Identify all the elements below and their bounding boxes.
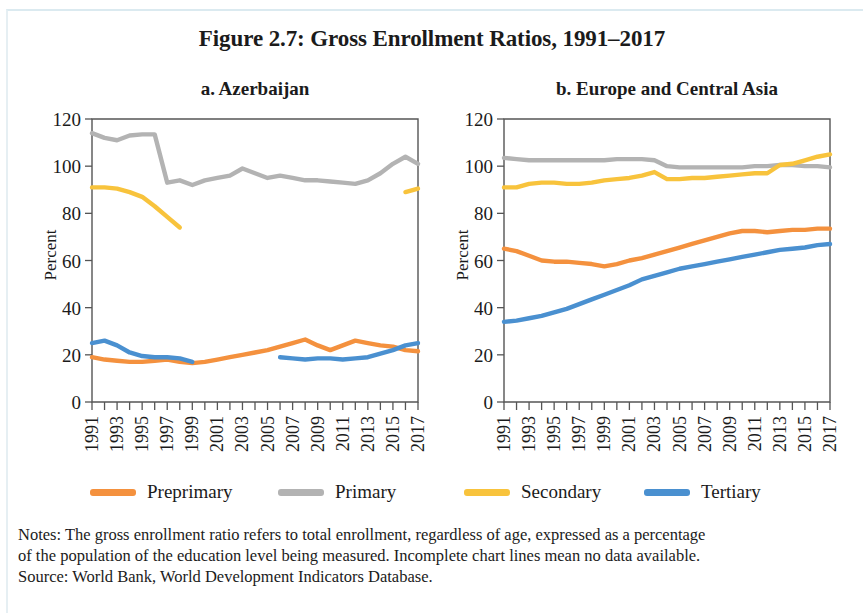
series-line-secondary: [405, 189, 418, 193]
svg-text:40: 40: [62, 298, 81, 319]
panel-b-plot: 0204060801001201991199319951997199920012…: [465, 109, 841, 452]
svg-text:60: 60: [62, 251, 81, 272]
series-line-tertiary: [504, 244, 830, 322]
svg-text:2015: 2015: [795, 416, 815, 452]
series-line-secondary: [92, 187, 180, 227]
svg-text:2001: 2001: [207, 416, 227, 452]
svg-text:2017: 2017: [820, 416, 840, 452]
svg-text:80: 80: [62, 203, 81, 224]
svg-text:2015: 2015: [383, 416, 403, 452]
legend-item-preprimary[interactable]: Preprimary: [90, 478, 232, 506]
svg-text:20: 20: [62, 345, 81, 366]
svg-text:2001: 2001: [619, 416, 639, 452]
legend-label-secondary: Secondary: [521, 481, 601, 503]
svg-text:1997: 1997: [569, 416, 589, 452]
legend-label-primary: Primary: [335, 481, 396, 503]
chart-legend: Preprimary Primary Secondary Tertiary: [46, 478, 836, 508]
series-line-primary: [92, 133, 418, 185]
legend-swatch-secondary: [464, 489, 510, 496]
panel-a-plot: 0204060801001201991199319951997199920012…: [53, 109, 429, 452]
svg-text:2009: 2009: [720, 416, 740, 452]
svg-text:2013: 2013: [770, 416, 790, 452]
series-line-tertiary: [280, 343, 418, 360]
svg-text:1995: 1995: [132, 416, 152, 452]
svg-text:60: 60: [474, 251, 493, 272]
legend-item-secondary[interactable]: Secondary: [464, 478, 601, 506]
svg-text:120: 120: [465, 109, 494, 130]
svg-text:1991: 1991: [494, 416, 514, 452]
legend-swatch-preprimary: [90, 489, 136, 496]
svg-text:1991: 1991: [82, 416, 102, 452]
legend-label-tertiary: Tertiary: [701, 481, 761, 503]
legend-swatch-primary: [278, 489, 324, 496]
notes-line-1: Notes: The gross enrollment ratio refers…: [18, 524, 846, 545]
svg-text:2011: 2011: [745, 416, 765, 451]
svg-text:2005: 2005: [258, 416, 278, 452]
legend-item-primary[interactable]: Primary: [278, 478, 396, 506]
svg-text:100: 100: [465, 156, 494, 177]
svg-text:1999: 1999: [182, 416, 202, 452]
svg-text:80: 80: [474, 203, 493, 224]
svg-text:1993: 1993: [107, 416, 127, 452]
svg-text:40: 40: [474, 298, 493, 319]
series-line-preprimary: [92, 340, 418, 364]
svg-text:2005: 2005: [670, 416, 690, 452]
notes-line-3: Source: World Bank, World Development In…: [18, 566, 846, 587]
svg-text:2013: 2013: [358, 416, 378, 452]
svg-text:2011: 2011: [333, 416, 353, 451]
svg-text:0: 0: [72, 392, 82, 413]
figure-page: Figure 2.7: Gross Enrollment Ratios, 199…: [0, 0, 864, 613]
charts-svg: 0204060801001201991199319951997199920012…: [0, 0, 864, 480]
svg-text:1997: 1997: [157, 416, 177, 452]
figure-notes: Notes: The gross enrollment ratio refers…: [18, 524, 846, 587]
svg-text:20: 20: [474, 345, 493, 366]
notes-line-2: of the population of the education level…: [18, 545, 846, 566]
svg-text:0: 0: [484, 392, 494, 413]
legend-swatch-tertiary: [644, 489, 690, 496]
svg-text:1995: 1995: [544, 416, 564, 452]
svg-text:1999: 1999: [594, 416, 614, 452]
series-line-preprimary: [504, 229, 830, 267]
svg-text:2007: 2007: [695, 416, 715, 452]
svg-text:2003: 2003: [644, 416, 664, 452]
svg-text:2003: 2003: [232, 416, 252, 452]
svg-text:100: 100: [53, 156, 82, 177]
svg-text:1993: 1993: [519, 416, 539, 452]
svg-text:2007: 2007: [283, 416, 303, 452]
svg-text:120: 120: [53, 109, 82, 130]
legend-label-preprimary: Preprimary: [147, 481, 232, 503]
svg-text:2009: 2009: [308, 416, 328, 452]
svg-text:2017: 2017: [408, 416, 428, 452]
legend-item-tertiary[interactable]: Tertiary: [644, 478, 761, 506]
